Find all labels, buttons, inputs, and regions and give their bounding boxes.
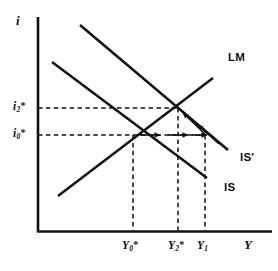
x-tick-Y1-base: Y: [197, 239, 204, 251]
diagram-canvas: [0, 0, 278, 271]
x-tick-Y2: Y2*: [168, 240, 184, 253]
x-axis-label: Y: [244, 238, 252, 251]
curve-is: [52, 62, 207, 178]
y-axis-label: i: [16, 14, 20, 27]
x-tick-Y1-sub: 1: [204, 244, 208, 253]
x-tick-Y0: Y0*: [122, 240, 138, 253]
x-tick-Y1: Y1: [197, 240, 208, 253]
curve-label-is: IS: [224, 182, 235, 194]
curve-lm: [58, 78, 213, 196]
x-tick-Y2-sup: *: [179, 239, 184, 250]
x-tick-Y0-base: Y: [122, 239, 129, 251]
guide-lines: [38, 108, 205, 230]
y-tick-i0-sup: *: [20, 127, 25, 138]
is-lm-figure: i Y i2* i0* Y0* Y2* Y1 LM IS' IS: [0, 0, 278, 271]
y-tick-i0: i0*: [13, 128, 25, 141]
y-tick-i2-sup: *: [20, 100, 25, 111]
arrow-diag-1: [183, 113, 205, 134]
curves: [52, 25, 228, 196]
x-tick-Y0-sup: *: [133, 239, 138, 250]
y-tick-i2: i2*: [13, 101, 25, 114]
axis-lines: [37, 17, 272, 232]
x-tick-Y2-base: Y: [168, 239, 175, 251]
curve-label-lm: LM: [228, 52, 245, 64]
curve-label-is-prime: IS': [240, 152, 254, 164]
adjustment-arrows: [140, 113, 219, 144]
